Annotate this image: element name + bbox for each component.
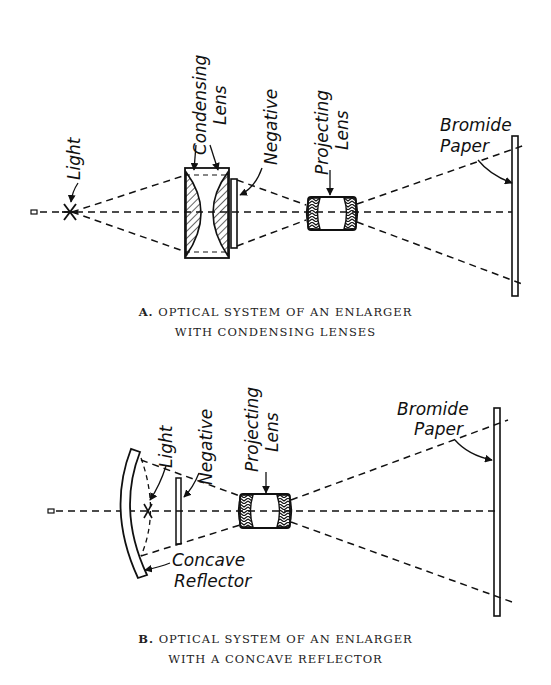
concave-reflector [121,449,147,578]
condensing-lens-right [213,172,228,256]
label-negative-a: Negative [261,89,281,165]
label-reflector-b: Reflector [174,571,252,591]
caption-b-letter: B. [138,632,154,646]
lamp-icon [48,509,54,513]
label-condensing-a: Condensing [190,55,210,155]
light-source-icon [62,204,78,220]
label-paper-a: Paper [440,136,490,156]
condensing-lens-left [186,172,201,256]
negative-plate [231,179,237,248]
label-light-a: Light [64,136,84,180]
label-bromide-a: Bromide [440,115,512,135]
caption-b-line1: OPTICAL SYSTEM OF AN ENLARGER [159,632,413,646]
caption-a: A. OPTICAL SYSTEM OF AN ENLARGER WITH CO… [0,302,551,342]
projecting-lens [307,197,358,230]
caption-b: B. OPTICAL SYSTEM OF AN ENLARGER WITH A … [0,629,551,669]
bromide-paper [512,136,518,296]
label-lens-a: Lens [210,85,230,125]
bromide-paper [494,408,500,616]
label-paper-b: Paper [414,419,464,439]
label-projecting-lens-a: Lens [332,110,352,150]
caption-a-line1: OPTICAL SYSTEM OF AN ENLARGER [158,305,412,319]
caption-a-line2: WITH CONDENSING LENSES [0,322,551,342]
label-concave-b: Concave [172,550,245,570]
label-projecting-lens-b: Lens [262,412,282,452]
caption-b-line2: WITH A CONCAVE REFLECTOR [0,649,551,669]
label-projecting-a: Projecting [312,90,332,175]
label-bromide-b: Bromide [397,399,469,419]
caption-a-letter: A. [139,305,154,319]
lamp-icon [31,210,37,214]
label-projecting-b: Projecting [242,387,262,472]
label-negative-b: Negative [196,409,216,485]
label-light-b: Light [156,424,176,468]
